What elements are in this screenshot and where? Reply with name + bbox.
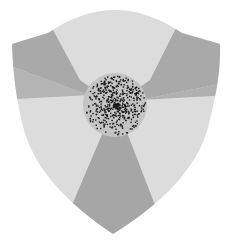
shield-emblem-icon — [0, 0, 230, 248]
